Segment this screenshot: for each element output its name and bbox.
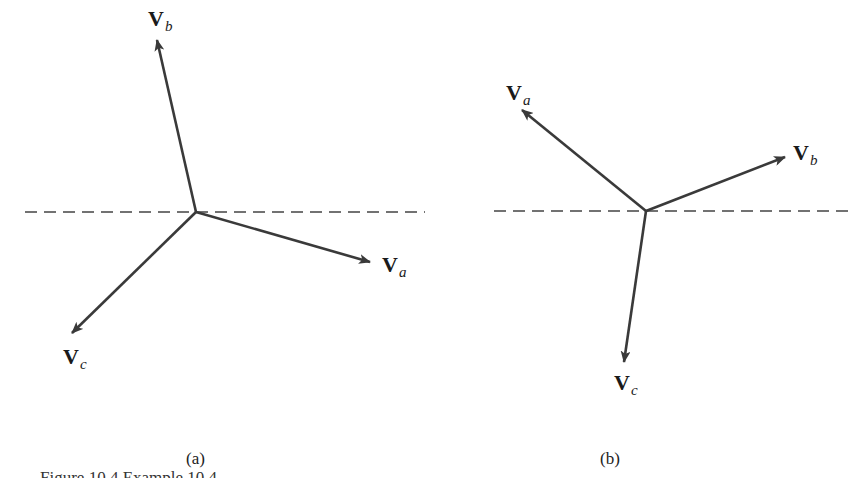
label-sub: a bbox=[399, 264, 407, 280]
label-vb-a: Vb bbox=[148, 6, 172, 32]
label-vc-a: Vc bbox=[63, 344, 87, 370]
panel-caption-b: (b) bbox=[600, 449, 620, 469]
vector-vb-b bbox=[646, 157, 785, 211]
vector-va-b bbox=[522, 110, 646, 211]
label-main: V bbox=[63, 344, 79, 369]
label-vc-b: Vc bbox=[614, 370, 638, 396]
vector-vc-a bbox=[72, 212, 196, 333]
vector-vb-a bbox=[157, 40, 196, 212]
label-sub: c bbox=[631, 382, 638, 398]
vector-vc-b bbox=[624, 211, 646, 362]
label-main: V bbox=[148, 6, 164, 31]
label-sub: a bbox=[523, 92, 531, 108]
label-main: V bbox=[793, 140, 809, 165]
panel-a bbox=[25, 40, 425, 333]
figure-caption: Figure 10.4 Example 10.4 bbox=[40, 466, 217, 478]
label-va-b: Va bbox=[506, 80, 530, 106]
label-sub: b bbox=[810, 152, 818, 168]
phasor-diagram bbox=[0, 0, 864, 478]
label-main: V bbox=[506, 80, 522, 105]
label-va-a: Va bbox=[382, 252, 406, 278]
label-main: V bbox=[614, 370, 630, 395]
label-vb-b: Vb bbox=[793, 140, 817, 166]
vector-va-a bbox=[196, 212, 370, 262]
label-main: V bbox=[382, 252, 398, 277]
label-sub: b bbox=[165, 18, 173, 34]
label-sub: c bbox=[80, 356, 87, 372]
